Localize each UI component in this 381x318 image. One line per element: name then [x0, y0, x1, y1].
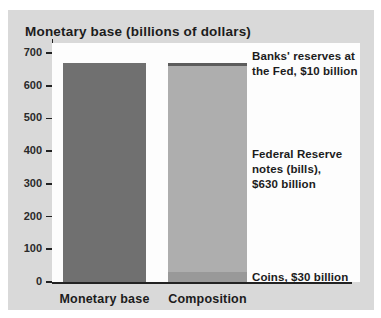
segment-banks-reserves	[168, 63, 247, 66]
y-tick-label-500: 500	[8, 111, 42, 123]
y-tick-mark-300	[46, 183, 52, 185]
annotation-federal-reserve-notes: Federal Reserve notes (bills), $630 bill…	[252, 147, 364, 192]
bar-composition	[168, 63, 247, 282]
y-tick-mark-200	[46, 216, 52, 218]
segment-monetary-base	[63, 63, 146, 282]
chart-title: Monetary base (billions of dollars)	[25, 24, 251, 39]
segment-federal-reserve-notes	[168, 66, 247, 272]
y-tick-label-0: 0	[8, 275, 42, 287]
y-tick-label-200: 200	[8, 210, 42, 222]
y-tick-mark-100	[46, 248, 52, 250]
y-tick-label-700: 700	[8, 46, 42, 58]
x-axis-line	[52, 282, 352, 284]
y-tick-mark-600	[46, 85, 52, 87]
y-tick-label-600: 600	[8, 79, 42, 91]
bar-monetary-base	[63, 63, 146, 282]
x-label-monetary-base: Monetary base	[59, 292, 149, 306]
y-tick-label-400: 400	[8, 144, 42, 156]
y-tick-mark-400	[46, 150, 52, 152]
x-label-composition: Composition	[168, 292, 247, 306]
y-tick-label-300: 300	[8, 177, 42, 189]
y-tick-mark-700	[46, 52, 52, 54]
plot-area: 0100200300400500600700Banks' reserves at…	[52, 43, 360, 282]
annotation-banks-reserves: Banks' reserves at the Fed, $10 billion	[252, 49, 364, 79]
y-tick-label-100: 100	[8, 242, 42, 254]
y-tick-mark-500	[46, 118, 52, 120]
segment-coins	[168, 272, 247, 282]
chart-panel: Monetary base (billions of dollars) 0100…	[8, 10, 374, 310]
